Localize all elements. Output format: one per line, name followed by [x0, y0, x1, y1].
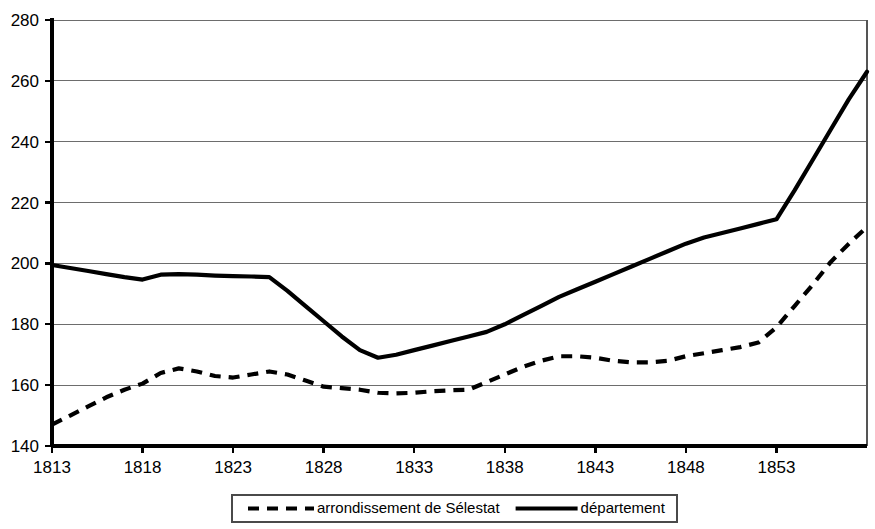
legend-label-1: arrondissement de Sélestat: [317, 499, 500, 516]
x-axis-tick-label: 1823: [214, 458, 252, 477]
y-axis-tick-labels: 140160180200220240260280: [11, 11, 39, 456]
series-line-2: [52, 72, 867, 358]
x-axis-tick-label: 1828: [305, 458, 343, 477]
series-line-1: [52, 227, 867, 425]
gridlines-group: [52, 20, 867, 446]
x-axis-tick-label: 1838: [486, 458, 524, 477]
y-axis-tick-label: 180: [11, 315, 39, 334]
series-group: [52, 72, 867, 425]
legend-label-2: département: [581, 499, 666, 516]
y-axis-tick-label: 220: [11, 194, 39, 213]
x-axis-tick-label: 1853: [758, 458, 796, 477]
chart-canvas: 140160180200220240260280 181318181823182…: [0, 0, 875, 529]
chart-legend: arrondissement de Sélestatdépartement: [232, 495, 677, 522]
y-axis-tick-label: 160: [11, 376, 39, 395]
y-axis-tick-label: 280: [11, 11, 39, 30]
y-axis-tick-label: 260: [11, 72, 39, 91]
line-chart: 140160180200220240260280 181318181823182…: [0, 0, 875, 529]
y-axis-tick-label: 140: [11, 437, 39, 456]
y-axis-tick-label: 240: [11, 133, 39, 152]
x-axis-tick-label: 1818: [124, 458, 162, 477]
x-axis-tick-label: 1843: [576, 458, 614, 477]
x-axis-tick-label: 1833: [395, 458, 433, 477]
x-axis-tick-labels: 181318181823182818331838184318481853: [33, 458, 795, 477]
x-axis-tick-label: 1848: [667, 458, 705, 477]
x-axis-tick-label: 1813: [33, 458, 71, 477]
y-axis-tick-label: 200: [11, 254, 39, 273]
